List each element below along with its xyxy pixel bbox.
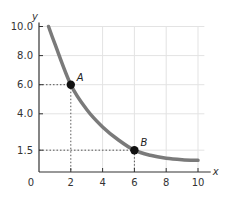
y-tick-label: 8.0: [17, 50, 33, 61]
x-tick-label: 10: [192, 177, 205, 188]
point-b: [130, 146, 138, 154]
point-label-b: B: [140, 137, 147, 148]
y-tick-label: 1.5: [17, 145, 33, 156]
x-tick-label: 8: [163, 177, 169, 188]
curve-line: [49, 27, 198, 161]
x-tick-label: 6: [131, 177, 137, 188]
x-tick-label: 0: [28, 177, 34, 188]
point-label-a: A: [76, 72, 84, 83]
x-tick-label: 2: [68, 177, 74, 188]
y-axis-label: y: [31, 11, 39, 22]
y-tick-label: 4.0: [17, 108, 33, 119]
y-tick-label: 6.0: [17, 79, 33, 90]
data-points: AB: [67, 72, 148, 155]
axes: [39, 23, 211, 173]
y-tick-label: 10.0: [11, 21, 33, 32]
x-tick-label: 4: [99, 177, 105, 188]
guide-lines: [39, 85, 134, 172]
x-axis-label: x: [212, 166, 219, 177]
point-a: [67, 81, 75, 89]
chart: 024681010.08.06.04.01.5yx AB: [0, 0, 227, 198]
